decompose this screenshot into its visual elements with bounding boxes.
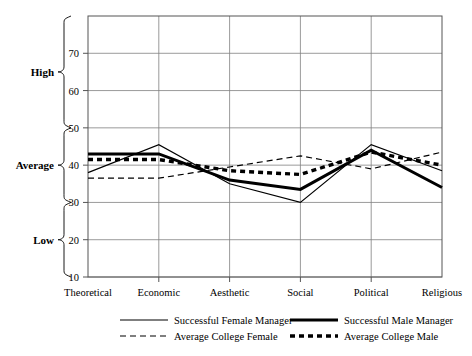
legend-label-successful-female-manager: Successful Female Manager (174, 315, 293, 326)
value-profile-chart: 10203040506070TheoreticalEconomicAesthet… (0, 0, 472, 356)
x-axis-label-aesthetic: Aesthetic (210, 287, 250, 298)
y-tick-label: 10 (69, 272, 80, 283)
x-axis-label-religious: Religious (422, 287, 462, 298)
series-group (88, 145, 442, 203)
axis-group: 10203040506070TheoreticalEconomicAesthet… (64, 48, 462, 298)
legend-label-average-college-female: Average College Female (174, 331, 278, 342)
legend-label-successful-male-manager: Successful Male Manager (344, 315, 454, 326)
series-line-successful-male-manager (88, 150, 442, 189)
x-axis-label-economic: Economic (138, 287, 181, 298)
chart-canvas: 10203040506070TheoreticalEconomicAesthet… (0, 0, 472, 356)
legend-label-average-college-male: Average College Male (344, 331, 439, 342)
band-label-high: High (31, 66, 54, 78)
x-axis-label-theoretical: Theoretical (64, 287, 112, 298)
plot-border (88, 16, 442, 277)
y-tick-label: 70 (69, 48, 80, 59)
plot-frame (88, 16, 442, 277)
band-group: HighAverageLow (16, 16, 71, 277)
y-tick-label: 20 (69, 235, 80, 246)
x-axis-label-political: Political (354, 287, 389, 298)
x-axis-label-social: Social (287, 287, 313, 298)
band-label-average: Average (16, 159, 54, 171)
legend: Successful Female ManagerSuccessful Male… (120, 315, 454, 342)
band-bracket (58, 16, 71, 128)
band-label-low: Low (33, 234, 54, 246)
y-tick-label: 40 (69, 160, 80, 171)
y-tick-label: 60 (69, 86, 80, 97)
gridlines (88, 16, 442, 277)
